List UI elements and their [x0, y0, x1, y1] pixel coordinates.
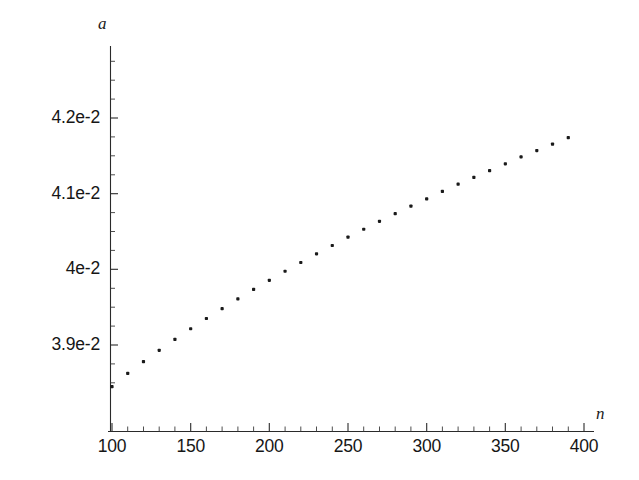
data-point [205, 317, 208, 320]
data-point [504, 162, 507, 165]
data-point [221, 307, 224, 310]
data-point [567, 136, 570, 139]
data-point [441, 190, 444, 193]
data-point [488, 169, 491, 172]
x-tick-label: 250 [318, 436, 378, 457]
data-point [283, 270, 286, 273]
data-point [394, 212, 397, 215]
data-point [315, 252, 318, 255]
x-axis-ticks [112, 423, 584, 432]
y-tick-label: 4.2e-2 [22, 107, 100, 128]
data-point [110, 385, 113, 388]
x-tick-label: 300 [397, 436, 457, 457]
plot-canvas [0, 0, 639, 480]
y-axis-label: a [98, 14, 107, 34]
data-point [425, 197, 428, 200]
y-tick-label: 3.9e-2 [22, 334, 100, 355]
scatter-plot-figure: a n 3.9e-24e-24.1e-24.2e-2 1001502002503… [0, 0, 639, 480]
x-tick-label: 150 [161, 436, 221, 457]
data-point [252, 288, 255, 291]
data-point [173, 338, 176, 341]
data-point [126, 372, 129, 375]
y-tick-label: 4e-2 [22, 258, 100, 279]
data-point [142, 360, 145, 363]
data-point [409, 205, 412, 208]
data-point [472, 176, 475, 179]
data-point [189, 327, 192, 330]
data-point-markers [110, 136, 569, 388]
data-point [378, 220, 381, 223]
data-point [551, 143, 554, 146]
x-axis-label: n [596, 404, 605, 424]
data-point [362, 228, 365, 231]
data-point [519, 155, 522, 158]
y-tick-label: 4.1e-2 [22, 183, 100, 204]
axis-lines [108, 46, 594, 432]
x-tick-label: 200 [239, 436, 299, 457]
y-axis-ticks [111, 61, 119, 383]
data-point [457, 183, 460, 186]
data-point [346, 236, 349, 239]
x-tick-label: 400 [554, 436, 614, 457]
data-point [331, 244, 334, 247]
data-point [158, 349, 161, 352]
data-point [236, 297, 239, 300]
x-tick-label: 100 [82, 436, 142, 457]
data-point [299, 261, 302, 264]
data-point [535, 149, 538, 152]
x-tick-label: 350 [475, 436, 535, 457]
data-point [268, 279, 271, 282]
